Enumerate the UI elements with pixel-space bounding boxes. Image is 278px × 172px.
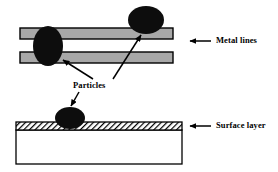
surface-layer-label: Surface layer — [216, 121, 266, 130]
arrow-to-particle-on-surface — [71, 92, 79, 106]
particle-bridging-metal-lines — [33, 26, 63, 66]
metal-lines-label: Metal lines — [216, 36, 257, 45]
particle-contamination-diagram: Metal lines Surface layer Particles — [0, 0, 278, 172]
particle-on-upper-metal-line — [128, 6, 164, 34]
diagram-canvas — [0, 0, 278, 172]
hatched-surface-layer — [16, 122, 182, 130]
particles-label: Particles — [73, 81, 106, 90]
substrate-group — [16, 122, 182, 164]
particles-group — [33, 6, 164, 129]
substrate-block — [16, 130, 182, 164]
particle-on-surface-layer — [55, 107, 85, 129]
